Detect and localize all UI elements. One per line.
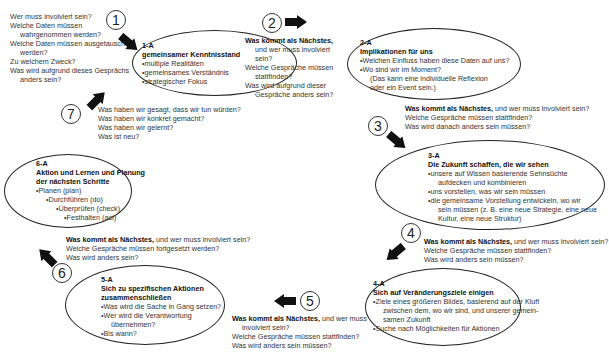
lead-question: Was kommt als Nächstes,: [424, 237, 512, 246]
bullet-continuation: sein müssen (z. B. eine neue Strategie, …: [428, 205, 597, 214]
phase-3a-text: 3-A Die Zukunft schaffen, die wir sehen …: [428, 151, 597, 223]
arrow-right-icon: [285, 15, 307, 29]
arrow-down-right-icon: [384, 129, 410, 154]
bullet-text: zwischen dem, wo wir sind, und unserer g…: [383, 306, 538, 315]
question: Welche Daten müssen ausgetauscht: [10, 39, 129, 48]
phase-4a-text: 4-A Sich auf Veränderungsziele einigen Z…: [373, 279, 539, 333]
question: Was wird anders sein müssen?: [424, 255, 608, 264]
step-2-questions: Was kommt als Nächstes, und wer muss inv…: [245, 36, 333, 99]
question: anders sein?: [10, 75, 129, 84]
phase-id: 6-A: [36, 159, 145, 168]
bullet: Überprüfen (check): [36, 204, 145, 213]
lead-question-rest: und wer muss involviert sein?: [154, 235, 250, 244]
phase-title: Sich auf Veränderungsziele einigen: [373, 288, 539, 297]
bullet: unsere auf Wissen basierende Sehnsüchte: [428, 169, 597, 178]
bullet: uns vorstellen, was wir sein müssen: [428, 187, 597, 196]
question: stattfinden?: [245, 72, 333, 81]
phase-title: zusammenschließen: [101, 293, 221, 302]
phase-title: gemeinsamer Kenntnisstand: [142, 50, 240, 59]
lead-question-rest: und wer muss: [320, 314, 367, 323]
question: Was wird danach anders sein müssen?: [405, 122, 589, 131]
step-7-number-circle: 7: [61, 104, 81, 124]
phase-id: 1-A: [142, 41, 240, 50]
question: Was wird anders sein?: [66, 253, 250, 262]
phase-title: Implikationen für uns: [360, 47, 509, 56]
question: Welche Gespräche müssen fortgesetzt werd…: [66, 244, 250, 253]
phase-title: Sich zu spezifischen Aktionen: [101, 284, 221, 293]
question: Was haben wir gesagt, dass wir tun würde…: [98, 105, 241, 114]
phase-title: Die Zukunft schaffen, die wir sehen: [428, 160, 597, 169]
question: Welche Gespräche müssen: [245, 63, 333, 72]
question: Welche Gespräche müssen stattfinden?: [424, 246, 608, 255]
bullet: Durchführen (do): [36, 195, 145, 204]
question: Gespräche anders sein?: [245, 90, 333, 99]
phase-id: 4-A: [373, 279, 539, 288]
bullet-continuation: übernehmen?: [101, 320, 221, 329]
phase-1a-text: 1-A gemeinsamer Kenntnisstand multiple R…: [142, 41, 240, 86]
phase-id: 5-A: [101, 275, 221, 284]
question: wahrgenommen werden?: [10, 30, 129, 39]
question: Was haben wir gelernt?: [98, 123, 241, 132]
step-6-number-circle: 6: [52, 263, 72, 283]
lead-question-rest: und wer muss involviert sein?: [493, 104, 589, 113]
bullet-text: samen Zukunft: [383, 315, 431, 324]
phase-id: 3-A: [428, 151, 597, 160]
question: Was wird aufgrund dieses Gesprächs: [10, 66, 129, 75]
bullet: Welchen Einfluss haben diese Daten auf u…: [360, 56, 509, 65]
bullet: gemeinsames Verständnis: [142, 68, 240, 77]
bullet: Bis wann?: [101, 329, 221, 338]
arrow-left-icon: [274, 294, 296, 308]
step-4-questions: Was kommt als Nächstes, und wer muss inv…: [424, 237, 608, 264]
bullet: die gemeinsame Vorstellung entwickeln, w…: [428, 196, 597, 205]
lead-question-rest: und wer muss involviert sein?: [512, 237, 608, 246]
step-5-questions: Was kommt als Nächstes, und wer muss inv…: [232, 314, 367, 350]
question: werden?: [10, 48, 129, 57]
step-7-questions: Was haben wir gesagt, dass wir tun würde…: [98, 105, 241, 141]
phase-2a-text: 2-A Implikationen für uns Welchen Einflu…: [360, 38, 509, 92]
step-4-number-circle: 4: [401, 223, 421, 243]
question: Was haben wir konkret gemacht?: [98, 114, 241, 123]
bullet-text: Kultur, eine neue Struktur): [438, 214, 522, 223]
question: Welche Gespräche müssen stattfinden?: [405, 113, 589, 122]
question: Was wird aufgrund dieser: [245, 81, 333, 90]
step-1-number-circle: 1: [106, 10, 126, 30]
bullet: multiple Realitäten: [142, 59, 240, 68]
question: Was wird anders sein müssen?: [232, 341, 367, 350]
phase-6a-text: 6-A Aktion und Lernen und Planung der nä…: [36, 159, 145, 222]
bullet: Wo sind wir im Moment?: [360, 65, 509, 74]
step-6-questions: Was kommt als Nächstes, und wer muss inv…: [66, 235, 250, 262]
lead-question: Was kommt als Nächstes,: [405, 104, 493, 113]
bullet-continuation: samen Zukunft: [373, 315, 539, 324]
step-3-number-circle: 3: [368, 116, 388, 136]
question: Welche Gespräche müssen stattfinden?: [232, 332, 367, 341]
phase-title: der nächsten Schritte: [36, 177, 145, 186]
arrow-down-left-icon: [382, 241, 408, 266]
bullet-continuation: Kultur, eine neue Struktur): [428, 214, 597, 223]
note: oder ein Event sein.): [360, 83, 509, 92]
step-2-number-circle: 2: [262, 13, 282, 33]
lead-question: Was kommt als Nächstes,: [232, 314, 320, 323]
bullet-continuation: zwischen dem, wo wir sind, und unserer g…: [373, 306, 539, 315]
bullet: Suche nach Möglichkeiten für Aktionen: [373, 324, 539, 333]
lead-question: Was kommt als Nächstes,: [245, 36, 333, 45]
question: Was ist neu?: [98, 132, 241, 141]
question: und wer muss involviert: [245, 45, 333, 54]
step-5-number-circle: 5: [300, 291, 320, 311]
bullet: Festhalten (act): [36, 213, 145, 222]
question: sein?: [245, 54, 333, 63]
phase-title: Aktion und Lernen und Planung: [36, 168, 145, 177]
bullet: Planen (plan): [36, 186, 145, 195]
question: Zu welchem Zweck?: [10, 57, 129, 66]
bullet-text: aufdecken und kombinieren: [438, 178, 526, 187]
bullet-text: übernehmen?: [111, 320, 155, 329]
lead-question: Was kommt als Nächstes,: [66, 235, 154, 244]
bullet: Was wird die Sache in Gang setzen?: [101, 302, 221, 311]
bullet-continuation: aufdecken und kombinieren: [428, 178, 597, 187]
phase-5a-text: 5-A Sich zu spezifischen Aktionen zusamm…: [101, 275, 221, 338]
bullet-text: sein müssen (z. B. eine neue Strategie, …: [438, 205, 597, 214]
bullet: Wer wird die Verantwortung: [101, 311, 221, 320]
bullet: strategischer Fokus: [142, 77, 240, 86]
question: involviert sein?: [232, 323, 367, 332]
bullet: Ziele eines größeren Bildes, basierend a…: [373, 297, 539, 306]
phase-id: 2-A: [360, 38, 509, 47]
